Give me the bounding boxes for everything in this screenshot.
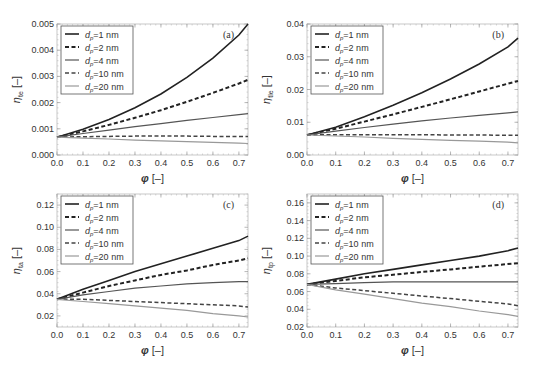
y-tick-label: 0.10 — [286, 251, 304, 261]
x-tick-label: 0.5 — [444, 158, 457, 168]
series-line — [307, 135, 518, 136]
series-line — [307, 112, 518, 135]
series-line — [57, 136, 248, 137]
x-tick-label: 0.0 — [51, 330, 64, 340]
legend: dp=1 nmdp=2 nmdp=4 nmdp=10 nmdp=20 nm — [61, 196, 133, 264]
y-tick-label: 0.001 — [31, 124, 54, 134]
legend: dp=1 nmdp=2 nmdp=4 nmdp=10 nmdp=20 nm — [311, 196, 383, 264]
series-line — [57, 258, 248, 299]
x-axis-label: φ [–] — [141, 172, 164, 184]
x-tick-label: 0.5 — [444, 330, 457, 340]
y-tick-label: 0.04 — [286, 304, 304, 314]
series-line — [307, 284, 518, 316]
x-tick-label: 0.3 — [129, 330, 142, 340]
panel-label: (d) — [492, 199, 504, 211]
legend: dp=1 nmdp=2 nmdp=4 nmdp=10 nmdp=20 nm — [61, 26, 133, 94]
x-tick-label: 0.7 — [502, 330, 515, 340]
y-tick-label: 0.12 — [36, 200, 54, 210]
x-tick-label: 0.4 — [155, 158, 168, 168]
series-line — [307, 135, 518, 143]
y-tick-label: 0.03 — [286, 52, 304, 62]
panel-label: (a) — [223, 29, 234, 41]
x-tick-label: 0.7 — [233, 330, 246, 340]
y-tick-label: 0.14 — [286, 216, 304, 226]
x-tick-label: 0.4 — [416, 158, 429, 168]
x-tick-label: 0.4 — [416, 330, 429, 340]
x-tick-label: 0.2 — [103, 158, 116, 168]
x-axis-label: φ [–] — [141, 344, 164, 356]
x-tick-label: 0.2 — [358, 158, 371, 168]
x-tick-label: 0.2 — [358, 330, 371, 340]
y-tick-label: 0.10 — [36, 222, 54, 232]
x-axis-label: φ [–] — [401, 344, 424, 356]
x-tick-label: 0.7 — [233, 158, 246, 168]
y-axis-label: ηtp [–] — [260, 247, 275, 274]
y-axis-label: ηte [–] — [10, 76, 24, 103]
x-tick-label: 0.6 — [473, 158, 486, 168]
y-tick-label: 0.12 — [286, 233, 304, 243]
y-axis-label: ηta [–] — [10, 247, 24, 274]
series-line — [307, 284, 518, 305]
y-tick-label: 0.04 — [36, 289, 54, 299]
y-tick-label: 0.04 — [286, 19, 304, 29]
x-tick-label: 0.3 — [387, 158, 400, 168]
x-tick-label: 0.4 — [155, 330, 168, 340]
subplot-b: 0.00.10.20.30.40.50.60.70.000.010.020.03… — [260, 19, 518, 184]
y-tick-label: 0.000 — [31, 150, 54, 160]
y-tick-label: 0.005 — [31, 19, 54, 29]
figure: 0.00.10.20.30.40.50.60.70.0000.0010.0020… — [0, 0, 538, 374]
x-tick-label: 0.7 — [502, 158, 515, 168]
y-tick-label: 0.08 — [286, 269, 304, 279]
x-tick-label: 0.2 — [103, 330, 116, 340]
y-tick-label: 0.06 — [286, 287, 304, 297]
x-axis-label: φ [–] — [401, 172, 424, 184]
x-tick-label: 0.1 — [77, 330, 90, 340]
series-line — [57, 299, 248, 307]
series-line — [307, 282, 518, 285]
y-axis-label: ηtle [–] — [260, 75, 274, 104]
x-tick-label: 0.5 — [181, 330, 194, 340]
y-tick-label: 0.06 — [36, 267, 54, 277]
y-tick-label: 0.00 — [286, 150, 304, 160]
series-line — [57, 137, 248, 143]
panel-label: (c) — [223, 199, 234, 211]
subplot-d: 0.00.10.20.30.40.50.60.70.020.040.060.08… — [260, 194, 518, 356]
series-line — [57, 114, 248, 138]
y-tick-label: 0.003 — [31, 71, 54, 81]
y-tick-label: 0.02 — [286, 322, 304, 332]
x-tick-label: 0.1 — [329, 330, 342, 340]
x-tick-label: 0.6 — [473, 330, 486, 340]
y-tick-label: 0.01 — [286, 117, 304, 127]
x-tick-label: 0.6 — [207, 158, 220, 168]
y-tick-label: 0.16 — [286, 198, 304, 208]
x-tick-label: 0.3 — [387, 330, 400, 340]
legend: dp=1 nmdp=2 nmdp=4 nmdp=10 nmdp=20 nm — [311, 26, 383, 94]
series-line — [57, 282, 248, 300]
x-tick-label: 0.3 — [129, 158, 142, 168]
y-tick-label: 0.02 — [286, 85, 304, 95]
y-tick-label: 0.02 — [36, 311, 54, 321]
x-tick-label: 0.6 — [207, 330, 220, 340]
x-tick-label: 0.5 — [181, 158, 194, 168]
y-tick-label: 0.08 — [36, 244, 54, 254]
x-tick-label: 0.1 — [77, 158, 90, 168]
x-tick-label: 0.1 — [329, 158, 342, 168]
subplot-c: 0.00.10.20.30.40.50.60.70.020.040.060.08… — [10, 194, 248, 356]
series-line — [57, 299, 248, 317]
chart-grid: 0.00.10.20.30.40.50.60.70.0000.0010.0020… — [0, 0, 538, 374]
subplot-a: 0.00.10.20.30.40.50.60.70.0000.0010.0020… — [10, 19, 248, 184]
y-tick-label: 0.002 — [31, 98, 54, 108]
y-tick-label: 0.004 — [31, 45, 54, 55]
panel-label: (b) — [492, 29, 504, 41]
